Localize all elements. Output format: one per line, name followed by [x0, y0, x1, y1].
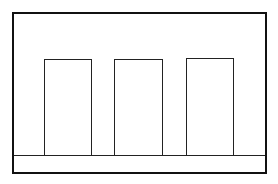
rectangle-1	[44, 59, 92, 155]
rectangle-3	[186, 58, 234, 155]
baseline	[14, 155, 265, 156]
rectangle-2	[114, 59, 163, 155]
